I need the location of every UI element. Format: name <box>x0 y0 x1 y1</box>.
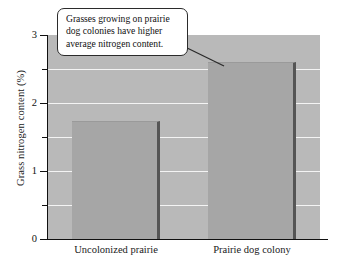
y-tick-major <box>40 35 48 36</box>
x-tick-label-0: Uncolonized prairie <box>48 244 184 255</box>
y-tick-label: 0 <box>24 234 37 244</box>
bar-chart-figure: Grass nitrogen content (%) Grasses growi… <box>0 0 338 267</box>
y-axis-title: Grass nitrogen content (%) <box>13 28 29 228</box>
y-tick-minor <box>42 205 48 206</box>
bar-1[interactable] <box>208 62 296 239</box>
x-tick-label-1: Prairie dog colony <box>184 244 320 255</box>
y-tick-label: 1 <box>24 166 37 176</box>
annotation-callout: Grasses growing on prairie dog colonies … <box>57 8 188 56</box>
y-tick-minor <box>42 69 48 70</box>
y-tick-minor <box>42 137 48 138</box>
plot-area <box>48 35 320 239</box>
y-tick-label: 3 <box>24 30 37 40</box>
bar-0[interactable] <box>72 121 160 239</box>
x-axis-line <box>40 239 328 240</box>
y-tick-major <box>40 171 48 172</box>
y-tick-major <box>40 239 48 240</box>
y-tick-label: 2 <box>24 98 37 108</box>
y-tick-major <box>40 103 48 104</box>
